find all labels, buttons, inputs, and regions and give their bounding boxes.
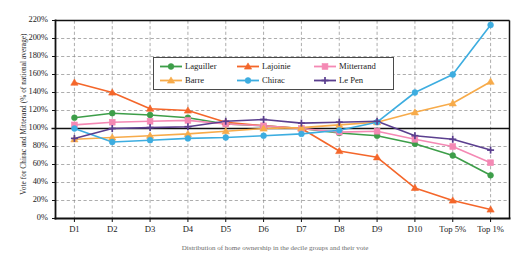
legend-label: Chirac (262, 76, 285, 85)
legend-item-lajoinie[interactable]: Lajoinie (236, 61, 313, 72)
x-tick-d8: D8 (334, 224, 345, 234)
y-tick-80pct: 80% (18, 141, 48, 150)
series-line-laguiller (74, 113, 490, 175)
datapoint-mitterrand-d3 (147, 118, 153, 124)
x-tick-top-5: Top 5% (439, 224, 466, 234)
legend-marker-mitterrand-icon (313, 61, 337, 72)
legend-item-chirac[interactable]: Chirac (236, 75, 313, 86)
datapoint-mitterrand-d2 (109, 119, 115, 125)
x-tick-d4: D4 (183, 224, 194, 234)
y-tick-20pct: 20% (18, 195, 48, 204)
datapoint-chirac-d4 (185, 136, 191, 142)
datapoint-laguiller-top5 (450, 153, 456, 159)
datapoint-laguiller-d1 (72, 115, 78, 121)
y-tick-220pct: 220% (18, 15, 48, 24)
datapoint-barre-top1 (487, 78, 494, 84)
legend-item-le-pen[interactable]: Le Pen (313, 75, 390, 86)
x-tick-d7: D7 (296, 224, 307, 234)
x-tick-d2: D2 (107, 224, 118, 234)
legend-item-mitterrand[interactable]: Mitterrand (313, 61, 390, 72)
datapoint-le pen-d3 (147, 124, 154, 131)
x-tick-top-1: Top 1% (477, 224, 504, 234)
datapoint-chirac-top1 (488, 22, 494, 28)
y-tick-0pct: 0% (18, 213, 48, 222)
legend-marker-chirac-icon (236, 75, 260, 86)
legend: LaguillerLajoinieMitterrandBarreChiracLe… (153, 57, 394, 90)
legend-label: Barre (185, 76, 204, 85)
datapoint-chirac-top5 (450, 72, 456, 78)
legend-label: Laguiller (185, 62, 217, 71)
series-line-lajoinie (74, 83, 490, 210)
y-tick-120pct: 120% (18, 105, 48, 114)
datapoint-chirac-d6 (261, 133, 267, 139)
datapoint-chirac-d3 (147, 137, 153, 143)
datapoint-le pen-d6 (260, 116, 267, 123)
datapoint-chirac-d5 (223, 135, 229, 141)
y-tick-160pct: 160% (18, 69, 48, 78)
datapoint-lajoinie-d1 (71, 79, 78, 85)
datapoint-laguiller-d3 (147, 112, 153, 118)
datapoint-laguiller-d2 (109, 110, 115, 116)
datapoint-chirac-d7 (299, 131, 305, 137)
x-tick-d10: D10 (408, 224, 423, 234)
legend-label: Lajoinie (262, 62, 291, 71)
datapoint-chirac-d8 (336, 127, 342, 133)
legend-marker-lajoinie-icon (236, 61, 260, 72)
y-tick-180pct: 180% (18, 51, 48, 60)
y-tick-140pct: 140% (18, 87, 48, 96)
datapoint-le pen-top1 (487, 147, 494, 154)
y-tick-40pct: 40% (18, 177, 48, 186)
figure-caption: Distribution of home ownership in the de… (45, 244, 505, 253)
x-tick-d9: D9 (372, 224, 383, 234)
y-tick-60pct: 60% (18, 159, 48, 168)
y-tick-100pct: 100% (18, 123, 48, 132)
legend-marker-laguiller-icon (159, 61, 183, 72)
datapoint-laguiller-top1 (488, 172, 494, 178)
legend-marker-barre-icon (159, 75, 183, 86)
legend-item-laguiller[interactable]: Laguiller (159, 61, 236, 72)
x-tick-d1: D1 (69, 224, 80, 234)
legend-item-barre[interactable]: Barre (159, 75, 236, 86)
datapoint-lajoinie-d8 (336, 147, 343, 153)
legend-marker-le-pen-icon (313, 75, 337, 86)
datapoint-chirac-d2 (109, 139, 115, 145)
datapoint-mitterrand-top5 (450, 144, 456, 150)
chart-figure: Vote for Chirac and Mitterand (% of nati… (0, 0, 527, 253)
legend-label: Le Pen (339, 76, 363, 85)
datapoint-mitterrand-d9 (374, 128, 380, 134)
plot-area (0, 0, 527, 253)
x-tick-d3: D3 (145, 224, 156, 234)
datapoint-chirac-d10 (412, 90, 418, 96)
datapoint-le pen-top5 (449, 136, 456, 143)
y-tick-200pct: 200% (18, 33, 48, 42)
legend-label: Mitterrand (339, 62, 376, 71)
datapoint-chirac-d1 (72, 126, 78, 132)
x-tick-d5: D5 (220, 224, 231, 234)
datapoint-barre-top5 (449, 100, 456, 106)
datapoint-mitterrand-top1 (488, 160, 494, 166)
datapoint-mitterrand-d4 (185, 118, 191, 124)
datapoint-le pen-d2 (109, 125, 116, 132)
x-tick-d6: D6 (258, 224, 269, 234)
